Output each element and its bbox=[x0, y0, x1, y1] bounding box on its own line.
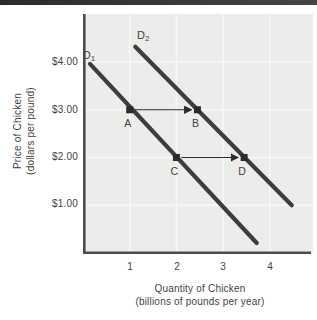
x-axis-title: Quantity of Chicken (billions of pounds … bbox=[88, 282, 312, 308]
point-label-C: C bbox=[171, 165, 179, 177]
demand-shift-figure: Price of Chicken (dollars per pound) $4.… bbox=[0, 0, 317, 320]
point-marker-A bbox=[126, 106, 133, 113]
x-tick-label-1: 1 bbox=[115, 260, 145, 273]
x-axis-title-main: Quantity of Chicken bbox=[88, 282, 312, 295]
plot-background bbox=[83, 14, 313, 253]
point-marker-D bbox=[241, 154, 248, 161]
point-label-A: A bbox=[124, 117, 131, 129]
point-label-B: B bbox=[192, 117, 199, 129]
x-tick-label-4: 4 bbox=[255, 260, 285, 273]
x-axis-title-sub: (billions of pounds per year) bbox=[88, 295, 312, 308]
point-marker-C bbox=[173, 154, 180, 161]
point-label-D: D bbox=[238, 165, 246, 177]
x-tick-label-2: 2 bbox=[162, 260, 192, 273]
point-marker-B bbox=[194, 106, 201, 113]
x-tick-label-3: 3 bbox=[208, 260, 238, 273]
